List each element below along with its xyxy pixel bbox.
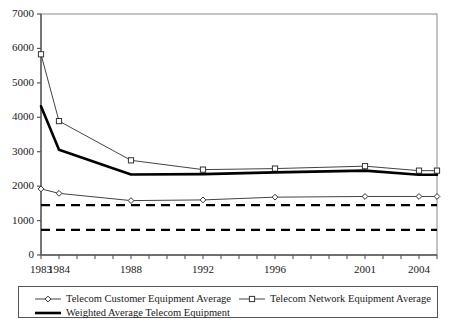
chart-legend: Telecom Customer Equipment AverageTeleco… [18, 286, 438, 318]
x-axis-tick-label: 1992 [177, 263, 229, 275]
data-point-marker [45, 296, 51, 302]
y-axis-tick-label: 6000 [0, 41, 34, 53]
data-point-marker [200, 197, 206, 203]
data-point-marker [416, 194, 422, 200]
data-point-marker [200, 167, 205, 172]
series-2 [38, 52, 439, 174]
data-point-marker [56, 118, 61, 123]
y-axis-tick-label: 2000 [0, 179, 34, 191]
y-axis-tick-label: 5000 [0, 76, 34, 88]
x-axis-tick-label: 1988 [105, 263, 157, 275]
legend-label: Telecom Customer Equipment Average [66, 293, 231, 304]
data-point-marker [38, 52, 43, 57]
plot-frame [41, 14, 437, 255]
x-axis-tick-label: 1996 [249, 263, 301, 275]
data-point-marker [434, 194, 440, 200]
data-point-marker [434, 168, 439, 173]
data-point-marker [362, 194, 368, 200]
legend-marker-square-icon [237, 293, 267, 305]
data-point-marker [272, 166, 277, 171]
data-point-marker [416, 168, 421, 173]
legend-marker-diamond-icon [33, 293, 63, 305]
legend-item[interactable]: Weighted Average Telecom Equipment [33, 305, 230, 320]
x-axis-tick-label: 1984 [33, 263, 85, 275]
series-line [41, 106, 437, 175]
legend-label: Weighted Average Telecom Equipment [66, 307, 230, 318]
data-point-marker [362, 164, 367, 169]
y-axis-tick-label: 4000 [0, 110, 34, 122]
y-axis-tick-label: 1000 [0, 214, 34, 226]
data-point-marker [249, 296, 254, 301]
data-point-marker [272, 194, 278, 200]
series-1 [38, 186, 440, 204]
x-axis-tick-label: 2004 [393, 263, 445, 275]
y-axis-tick-label: 7000 [0, 7, 34, 19]
data-point-marker [128, 158, 133, 163]
line-chart-plot [0, 0, 458, 332]
series-line [41, 189, 437, 201]
series-line [41, 54, 437, 170]
y-axis-tick-label: 3000 [0, 145, 34, 157]
chart-container: Telecom Customer Equipment AverageTeleco… [0, 0, 458, 332]
y-axis-tick-label: 0 [0, 248, 34, 260]
legend-item[interactable]: Telecom Customer Equipment Average [33, 291, 231, 306]
legend-label: Telecom Network Equipment Average [270, 293, 431, 304]
series-3 [41, 106, 437, 175]
data-point-marker [38, 186, 44, 192]
x-axis-tick-label: 2001 [339, 263, 391, 275]
legend-marker-none-icon [33, 307, 63, 319]
legend-item[interactable]: Telecom Network Equipment Average [237, 291, 431, 306]
data-point-marker [56, 190, 62, 196]
data-point-marker [128, 198, 134, 204]
